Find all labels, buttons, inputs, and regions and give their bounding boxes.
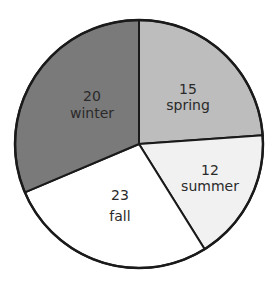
pie-slice-spring [139, 20, 263, 144]
slice-name-winter: winter [70, 105, 114, 121]
pie-chart: 15spring12summer23fall20winter [0, 0, 277, 285]
slice-name-fall: fall [109, 208, 130, 224]
slice-value-winter: 20 [83, 88, 101, 104]
slice-value-fall: 23 [111, 187, 129, 203]
pie-chart-svg: 15spring12summer23fall20winter [0, 0, 277, 285]
slice-value-spring: 15 [179, 81, 197, 97]
slice-value-summer: 12 [201, 162, 219, 178]
slice-name-spring: spring [166, 97, 210, 113]
slice-name-summer: summer [181, 178, 239, 194]
